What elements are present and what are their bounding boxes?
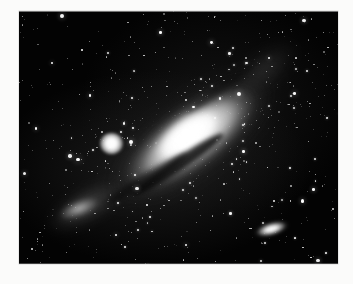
bright-star bbox=[268, 57, 270, 59]
star bbox=[237, 92, 241, 96]
star bbox=[294, 237, 296, 239]
star bbox=[132, 211, 134, 213]
star bbox=[132, 127, 134, 129]
star bbox=[135, 187, 138, 190]
star bbox=[306, 70, 308, 72]
star bbox=[228, 52, 231, 55]
star bbox=[214, 117, 216, 119]
star bbox=[192, 106, 195, 109]
star bbox=[229, 212, 232, 215]
star bbox=[260, 260, 262, 262]
star bbox=[107, 52, 109, 54]
star bbox=[60, 14, 64, 18]
bright-star bbox=[242, 150, 244, 152]
star bbox=[233, 64, 235, 66]
bright-star bbox=[51, 62, 54, 65]
star bbox=[228, 69, 230, 71]
bright-star bbox=[185, 244, 187, 246]
star bbox=[182, 189, 184, 191]
bright-star bbox=[159, 31, 162, 34]
star bbox=[290, 95, 292, 97]
star bbox=[129, 140, 133, 144]
star bbox=[293, 107, 295, 109]
star bbox=[120, 131, 122, 133]
star bbox=[301, 199, 305, 203]
star bbox=[289, 167, 291, 169]
star bbox=[232, 47, 234, 49]
star bbox=[242, 140, 244, 142]
bright-star bbox=[210, 41, 213, 44]
star bbox=[281, 199, 283, 201]
star bbox=[236, 158, 238, 160]
star bbox=[211, 85, 213, 87]
star bbox=[246, 161, 248, 163]
star bbox=[245, 62, 247, 64]
star bbox=[239, 178, 241, 180]
star bbox=[231, 163, 233, 165]
star bbox=[271, 206, 273, 208]
star bbox=[123, 122, 126, 125]
star bbox=[216, 139, 218, 141]
bright-star bbox=[76, 158, 79, 161]
photo-page bbox=[0, 0, 353, 284]
star bbox=[134, 174, 136, 176]
star bbox=[326, 117, 328, 119]
star bbox=[124, 246, 126, 248]
starfield-bright bbox=[19, 11, 338, 264]
star bbox=[92, 149, 94, 151]
bright-star bbox=[312, 188, 315, 191]
star bbox=[117, 202, 119, 204]
star bbox=[131, 97, 133, 99]
bright-star bbox=[115, 234, 118, 237]
bright-star bbox=[293, 92, 296, 95]
star bbox=[23, 172, 26, 175]
star bbox=[200, 78, 202, 80]
star bbox=[315, 180, 317, 182]
star bbox=[219, 97, 221, 99]
star bbox=[302, 19, 305, 22]
star bbox=[295, 68, 297, 70]
star bbox=[268, 105, 270, 107]
star bbox=[151, 231, 153, 233]
star bbox=[242, 124, 244, 126]
plate-edge-top bbox=[19, 11, 338, 12]
star bbox=[133, 70, 135, 72]
star bbox=[325, 252, 327, 254]
star bbox=[195, 197, 197, 199]
star bbox=[137, 229, 139, 231]
plate-edge-bottom bbox=[19, 263, 338, 264]
star bbox=[316, 259, 319, 262]
star bbox=[155, 142, 157, 144]
star bbox=[264, 242, 266, 244]
star bbox=[262, 222, 264, 224]
star bbox=[314, 158, 316, 160]
bright-star bbox=[35, 127, 37, 129]
star bbox=[68, 154, 72, 158]
bright-star bbox=[89, 94, 91, 96]
star bbox=[189, 182, 191, 184]
star bbox=[147, 222, 149, 224]
star bbox=[149, 216, 151, 218]
astronomy-photo-plate bbox=[19, 11, 338, 264]
star bbox=[71, 137, 73, 139]
